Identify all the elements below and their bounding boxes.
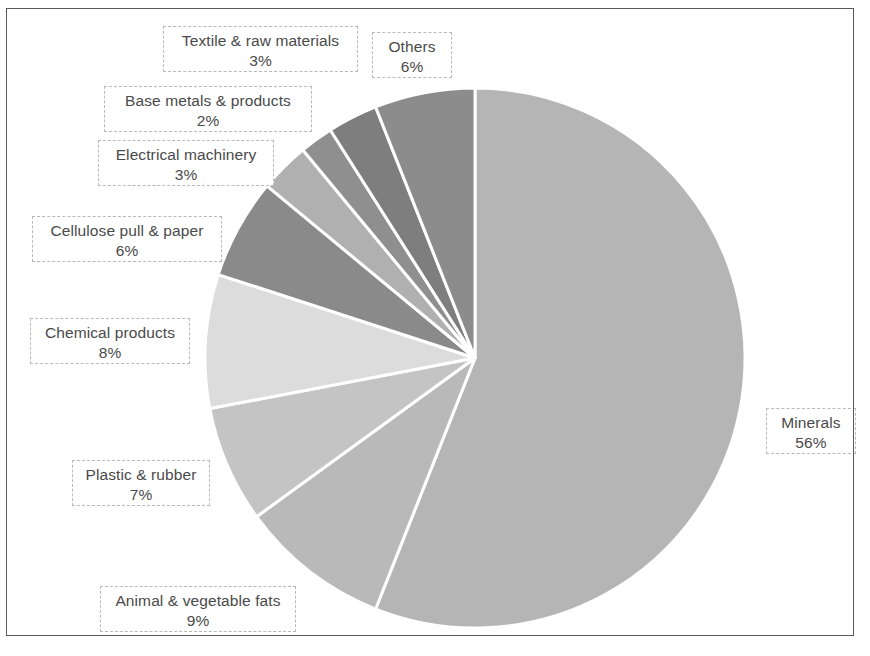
pie-label-percent: 3% (172, 51, 349, 71)
pie-label-name: Base metals & products (113, 91, 303, 111)
pie-label-animal-vegetable-fats: Animal & vegetable fats9% (100, 586, 296, 632)
pie-label-percent: 3% (107, 165, 265, 185)
pie-label-percent: 9% (109, 611, 287, 631)
pie-label-name: Textile & raw materials (172, 31, 349, 51)
pie-label-name: Plastic & rubber (81, 465, 201, 485)
pie-label-name: Cellulose pull & paper (41, 221, 213, 241)
pie-label-others: Others6% (372, 32, 452, 78)
pie-label-percent: 56% (775, 433, 847, 453)
pie-chart-figure: Textile & raw materials3%Others6%Base me… (0, 0, 870, 656)
pie-label-percent: 6% (41, 241, 213, 261)
pie-slice-group (205, 88, 745, 628)
pie-label-name: Animal & vegetable fats (109, 591, 287, 611)
pie-label-cellulose-pull-paper: Cellulose pull & paper6% (32, 216, 222, 262)
pie-label-electrical-machinery: Electrical machinery3% (98, 140, 274, 186)
pie-label-name: Minerals (775, 413, 847, 433)
pie-label-percent: 6% (381, 57, 443, 77)
pie-label-name: Electrical machinery (107, 145, 265, 165)
pie-label-name: Others (381, 37, 443, 57)
pie-label-plastic-rubber: Plastic & rubber7% (72, 460, 210, 506)
pie-label-percent: 7% (81, 485, 201, 505)
pie-label-name: Chemical products (39, 323, 181, 343)
pie-label-minerals: Minerals56% (766, 408, 856, 454)
pie-label-textile-raw-materials: Textile & raw materials3% (163, 26, 358, 72)
pie-label-chemical-products: Chemical products8% (30, 318, 190, 364)
pie-label-percent: 8% (39, 343, 181, 363)
pie-label-base-metals-products: Base metals & products2% (104, 86, 312, 132)
pie-label-percent: 2% (113, 111, 303, 131)
